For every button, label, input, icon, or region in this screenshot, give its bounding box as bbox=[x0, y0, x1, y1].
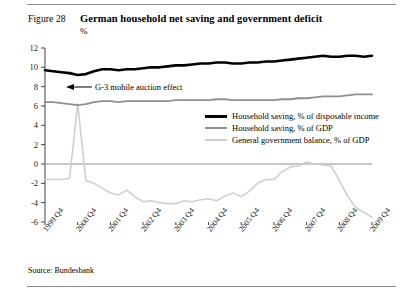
legend-label: General government balance, % of GDP bbox=[232, 135, 369, 145]
y-axis-tick-label: 2 bbox=[14, 140, 38, 150]
y-axis-tick-label: 4 bbox=[14, 120, 38, 130]
legend-swatch-household-saving-gdp bbox=[205, 127, 227, 129]
chart-plot-area bbox=[0, 0, 403, 298]
legend-swatch-government-balance-gdp bbox=[205, 139, 227, 141]
y-axis-tick-label: -4 bbox=[14, 198, 38, 208]
y-axis-tick-label: 0 bbox=[14, 159, 38, 169]
y-axis-tick-label: -6 bbox=[14, 217, 38, 227]
y-axis-tick-label: -2 bbox=[14, 178, 38, 188]
bottom-divider bbox=[27, 286, 396, 287]
source-note: Source: Bundesbank bbox=[28, 266, 94, 275]
legend-label: Household saving, % of disposable income bbox=[232, 111, 379, 121]
y-axis-tick-label: 6 bbox=[14, 101, 38, 111]
legend-item: Household saving, % of disposable income bbox=[205, 110, 379, 122]
annotation-label: G-3 mobile auction effect bbox=[95, 82, 182, 92]
chart-svg bbox=[0, 0, 403, 298]
legend-swatch-household-saving-disposable-income bbox=[205, 115, 227, 118]
y-axis-tick-label: 10 bbox=[14, 62, 38, 72]
figure-page: Figure 28 German household net saving an… bbox=[0, 0, 403, 298]
y-axis-tick-label: 8 bbox=[14, 82, 38, 92]
chart-legend: Household saving, % of disposable income… bbox=[205, 110, 379, 146]
legend-label: Household saving, % of GDP bbox=[232, 123, 333, 133]
legend-item: General government balance, % of GDP bbox=[205, 134, 379, 146]
legend-item: Household saving, % of GDP bbox=[205, 122, 379, 134]
y-axis-tick-label: 12 bbox=[14, 43, 38, 53]
left-arrow-icon bbox=[66, 84, 92, 90]
